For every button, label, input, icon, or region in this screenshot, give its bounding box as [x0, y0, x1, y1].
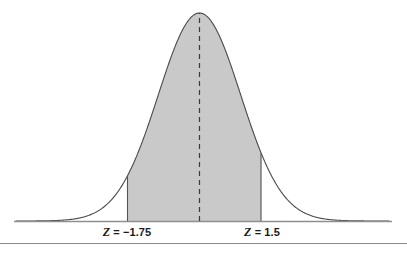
shaded-area-accurate — [127, 13, 261, 221]
axis-label-right: Z = 1.5 — [244, 225, 280, 240]
z-equals-left: = — [110, 226, 123, 238]
normal-distribution-chart — [0, 0, 407, 255]
axis-label-left: Z = −1.75 — [103, 225, 152, 240]
normal-curve-figure: Z = −1.75 Z = 1.5 — [0, 0, 407, 255]
z-value-left: −1.75 — [123, 226, 151, 238]
bottom-separator-rule — [0, 243, 407, 244]
z-equals-right: = — [252, 226, 265, 238]
z-value-right: 1.5 — [264, 226, 280, 238]
